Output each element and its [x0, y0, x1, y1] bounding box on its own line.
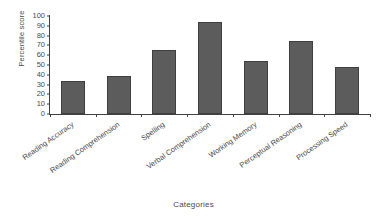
bar [244, 61, 268, 114]
y-axis-title: Percentile score [17, 0, 26, 94]
x-axis-line [49, 114, 371, 115]
bar [152, 50, 176, 114]
bar [107, 76, 131, 114]
bar-chart: Percentile score 0102030405060708090100 … [0, 0, 387, 222]
plot-area: 0102030405060708090100 Reading AccuracyR… [50, 16, 370, 114]
y-tick-mark [47, 55, 50, 56]
x-tick-mark [141, 114, 142, 117]
y-tick-mark [47, 84, 50, 85]
x-tick-mark [324, 114, 325, 117]
x-tick-mark [233, 114, 234, 117]
x-tick-mark [96, 114, 97, 117]
y-tick-mark [47, 94, 50, 95]
y-tick-mark [47, 74, 50, 75]
x-tick-mark [279, 114, 280, 117]
bar [61, 81, 85, 114]
y-tick-mark [47, 45, 50, 46]
y-tick-mark [47, 16, 50, 17]
y-tick-mark [47, 35, 50, 36]
y-tick-mark [47, 65, 50, 66]
x-tick-mark [370, 114, 371, 117]
x-axis-title: Categories [0, 200, 387, 209]
y-tick-mark [47, 104, 50, 105]
x-tick-mark [187, 114, 188, 117]
bar [198, 22, 222, 114]
x-tick-mark [50, 114, 51, 117]
bar [335, 67, 359, 114]
x-category-label: Processing Speed [247, 121, 350, 196]
y-tick-mark [47, 25, 50, 26]
bar [289, 41, 313, 115]
